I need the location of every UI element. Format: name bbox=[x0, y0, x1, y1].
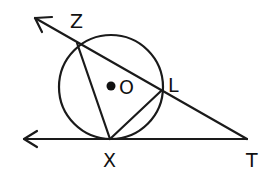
label-x: X bbox=[103, 149, 116, 171]
geometry-diagram: Z O L X T bbox=[0, 0, 272, 182]
label-t: T bbox=[245, 149, 258, 171]
label-l: L bbox=[168, 74, 179, 96]
label-o: O bbox=[119, 76, 134, 98]
secant-line-tz bbox=[35, 18, 247, 139]
center-point-o bbox=[107, 82, 116, 91]
label-z: Z bbox=[70, 10, 83, 32]
